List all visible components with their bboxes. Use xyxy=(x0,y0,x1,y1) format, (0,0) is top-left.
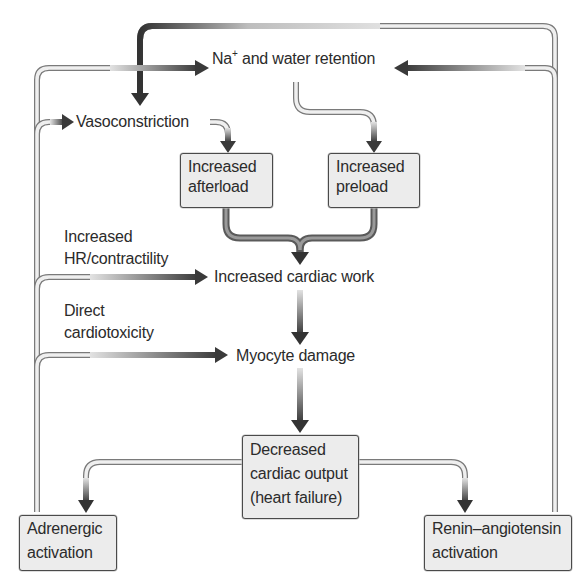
node-adrenergic-activation: Adrenergic activation xyxy=(19,515,117,571)
edge-cardiac-work-to-myocyte-damage xyxy=(291,290,309,345)
cardiotox-line2: cardiotoxicity xyxy=(64,323,154,342)
arrowhead-icon xyxy=(62,114,74,130)
edge-myocyte-damage-to-decreased-output xyxy=(291,368,309,433)
arrowhead-icon xyxy=(78,500,94,513)
edge-label-hr-contractility: Increased HR/contractility xyxy=(64,227,168,268)
na-rest-text: and water retention xyxy=(238,50,375,67)
edge-decreased-output-to-adrenergic xyxy=(78,462,242,513)
node-increased-afterload: Increased afterload xyxy=(180,153,273,208)
edge-renin-to-na-water xyxy=(394,60,555,78)
hr-line2: HR/contractility xyxy=(64,249,168,268)
edge-loads-to-cardiac-work xyxy=(226,208,374,265)
arrowhead-icon xyxy=(394,60,408,76)
edge-na-water-to-preload xyxy=(296,82,382,153)
output-line3: (heart failure) xyxy=(250,488,351,508)
arrowhead-icon xyxy=(291,420,309,433)
renin-line1: Renin–angiotensin xyxy=(432,519,564,539)
edge-decreased-output-to-renin xyxy=(358,462,473,513)
na-text: Na xyxy=(212,50,232,67)
preload-line2: preload xyxy=(336,177,412,197)
arrowhead-icon xyxy=(195,60,209,76)
edge-adrenergic-to-myocyte-damage xyxy=(37,347,228,367)
arrowhead-icon xyxy=(220,141,236,153)
node-increased-preload: Increased preload xyxy=(328,153,420,208)
node-myocyte-damage: Myocyte damage xyxy=(236,346,355,365)
node-increased-cardiac-work: Increased cardiac work xyxy=(214,267,374,286)
node-renin-angiotensin-activation: Renin–angiotensin activation xyxy=(424,515,572,571)
node-na-water-retention: Na+ and water retention xyxy=(212,49,375,68)
edge-vasoconstriction-to-afterload xyxy=(210,122,236,153)
node-vasoconstriction: Vasoconstriction xyxy=(76,112,189,131)
arrowhead-icon xyxy=(291,252,309,265)
arrowhead-icon xyxy=(457,500,473,513)
arrowhead-icon xyxy=(366,141,382,153)
afterload-line1: Increased xyxy=(188,157,265,177)
arrowhead-icon xyxy=(131,93,149,106)
arrowhead-icon xyxy=(195,269,208,285)
adrenergic-line1: Adrenergic xyxy=(27,519,109,539)
edge-label-direct-cardiotoxicity: Direct cardiotoxicity xyxy=(64,301,154,342)
adrenergic-line2: activation xyxy=(27,543,109,563)
cardiotox-line1: Direct xyxy=(64,301,154,320)
renin-line2: activation xyxy=(432,543,564,563)
edge-adrenergic-to-vasoconstriction xyxy=(37,114,74,134)
output-line1: Decreased xyxy=(250,440,351,460)
hr-line1: Increased xyxy=(64,227,168,246)
preload-line1: Increased xyxy=(336,157,412,177)
output-line2: cardiac output xyxy=(250,464,351,484)
node-decreased-cardiac-output: Decreased cardiac output (heart failure) xyxy=(242,435,359,519)
arrowhead-icon xyxy=(291,332,309,345)
arrowhead-icon xyxy=(215,347,228,363)
edge-adrenergic-to-cardiac-work xyxy=(37,269,208,289)
afterload-line2: afterload xyxy=(188,177,265,197)
